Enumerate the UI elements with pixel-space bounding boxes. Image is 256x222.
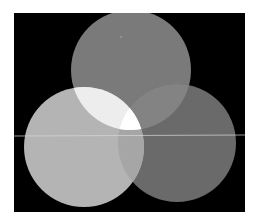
venn-circles: [14, 13, 245, 212]
figure-canvas: [14, 13, 245, 212]
speck: [120, 36, 122, 38]
